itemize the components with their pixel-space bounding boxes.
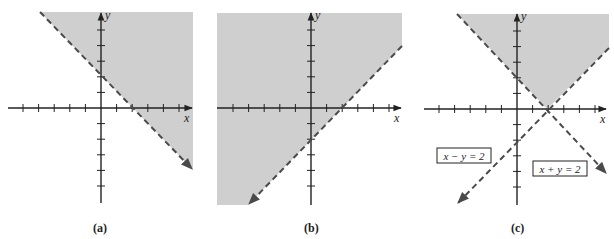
caption-a: (a) [93,221,107,235]
inequality-graphs-figure: y x (a) y x (b) [0,0,614,239]
equation-label-x-minus-y: x − y = 2 [437,148,491,163]
equation-text-x-minus-y: x − y = 2 [442,150,485,162]
x-axis-label-a: x [183,111,190,125]
equation-text-x-plus-y: x + y = 2 [538,163,581,175]
y-axis-label-b: y [314,8,321,22]
panel-a: y x (a) [8,8,193,235]
shaded-region-b [217,13,402,205]
y-axis-label-c: y [520,9,527,23]
y-axis-label-a: y [104,8,111,22]
panel-c: x − y = 2 x + y = 2 y x (c) [424,9,609,235]
x-axis-label-c: x [599,112,606,126]
panel-b: y x (b) [217,8,402,235]
x-axis-label-b: x [393,111,400,125]
caption-c: (c) [511,221,524,235]
equation-label-x-plus-y: x + y = 2 [533,161,587,176]
caption-b: (b) [304,221,319,235]
